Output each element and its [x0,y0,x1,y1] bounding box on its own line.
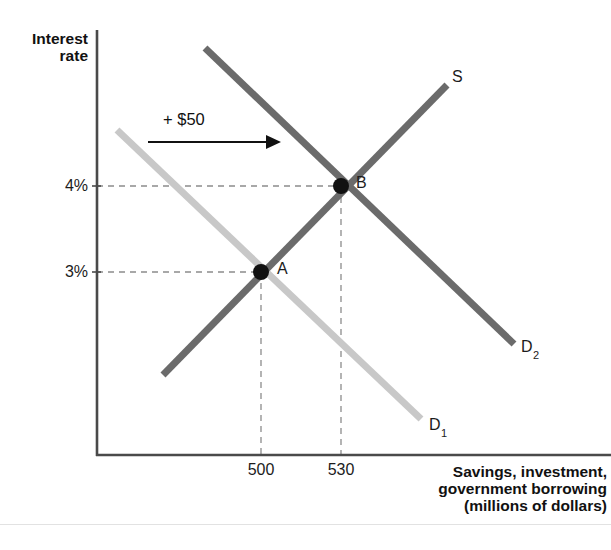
point-b-label: B [356,174,367,192]
bottom-divider [0,524,611,525]
equilibrium-point-a [253,264,269,280]
demand-curve-d2 [205,48,514,344]
demand-curve-d2-label: D2 [521,338,539,356]
demand-curve-d2-label-text: D [521,338,533,355]
shift-arrow-head [266,135,281,149]
supply-curve-s [163,85,447,375]
demand-curve-d1-label-text: D [429,416,441,433]
equilibrium-point-b [333,178,349,194]
point-a-label: A [277,260,288,278]
x-axis-title: Savings, investment, government borrowin… [381,463,607,514]
y-tick-label-4pct: 4% [42,177,88,195]
shift-arrow [148,135,281,149]
y-tick-label-3pct: 3% [42,263,88,281]
supply-curve-label: S [452,68,463,86]
demand-curve-d2-label-subscript: 2 [533,349,539,361]
figure-title-cropped [0,0,611,12]
y-axis-title: Interest rate [6,30,88,64]
x-tick-label-500: 500 [231,461,291,479]
shift-annotation-label: + $50 [163,110,205,129]
x-tick-label-530: 530 [311,461,371,479]
loanable-funds-chart: Interest rate Savings, investment, gover… [0,0,611,550]
axes [96,30,611,456]
demand-curve-d1 [117,130,421,419]
demand-curve-d1-label: D1 [429,416,447,434]
demand-curve-d1-label-subscript: 1 [441,427,447,439]
